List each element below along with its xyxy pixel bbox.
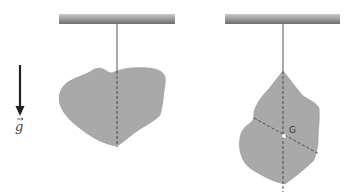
left-lamina-body bbox=[59, 68, 165, 146]
right-support-bar bbox=[225, 14, 340, 24]
left-suspension-figure bbox=[59, 14, 175, 147]
left-support-bar bbox=[59, 14, 175, 24]
center-of-gravity-point bbox=[282, 134, 286, 138]
gravity-label: g bbox=[15, 119, 23, 134]
right-suspension-figure: G bbox=[225, 14, 340, 192]
gravity-vector: g bbox=[15, 65, 25, 134]
suspension-diagram: g G bbox=[0, 0, 351, 196]
right-lamina-body bbox=[239, 71, 319, 184]
center-of-gravity-label: G bbox=[289, 125, 296, 135]
arrow-head-icon bbox=[16, 106, 25, 116]
